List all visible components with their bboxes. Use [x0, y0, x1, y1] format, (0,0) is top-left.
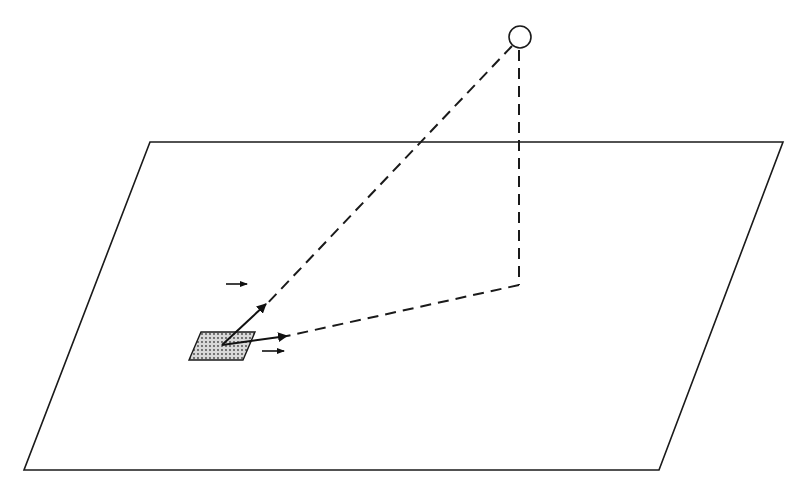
diagram-canvas — [0, 0, 797, 488]
incident-ray-dashed — [264, 46, 512, 307]
light-source-circle — [509, 26, 531, 48]
surface-patch — [189, 332, 255, 360]
ground-plane — [24, 142, 783, 470]
reflected-ray-dashed — [287, 285, 519, 336]
